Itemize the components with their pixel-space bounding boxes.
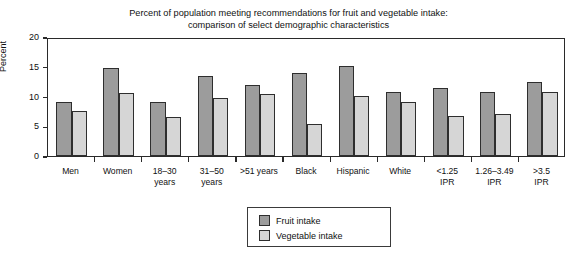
y-tick-label: 10 xyxy=(13,92,39,102)
x-tick-label-line-1: White xyxy=(389,166,411,176)
bar-fruit-intake xyxy=(433,88,448,156)
bar-group xyxy=(339,39,370,156)
legend-swatch-vegetable-intake xyxy=(259,230,270,241)
y-tick-label: 5 xyxy=(13,121,39,131)
bar-fruit-intake xyxy=(150,102,165,156)
x-tick-label-line-1: Black xyxy=(295,166,316,176)
x-tick-label-line-1: 1.26–3.49 xyxy=(475,166,513,176)
bar-vegetable-intake xyxy=(448,116,463,156)
x-tick-mark xyxy=(424,157,425,162)
x-tick-mark xyxy=(518,157,519,162)
x-tick-mark xyxy=(188,157,189,162)
bar-vegetable-intake xyxy=(213,98,228,156)
bar-vegetable-intake xyxy=(119,93,134,156)
bars-layer xyxy=(48,39,564,156)
x-tick-mark xyxy=(377,157,378,162)
x-tick-mark xyxy=(141,157,142,162)
bar-fruit-intake xyxy=(386,92,401,156)
chart-title: Percent of population meeting recommenda… xyxy=(0,8,577,31)
x-tick-label-line-1: Women xyxy=(103,166,132,176)
legend-item-fruit-intake: Fruit intake xyxy=(259,213,390,228)
chart-legend: Fruit intake Vegetable intake xyxy=(247,207,391,247)
bar-vegetable-intake xyxy=(307,124,322,156)
x-tick-mark xyxy=(282,157,283,162)
x-tick-label-line-2: years xyxy=(182,177,241,188)
x-tick-label-line-1: 31–50 xyxy=(200,166,224,176)
bar-group xyxy=(527,39,558,156)
bar-vegetable-intake xyxy=(401,102,416,156)
bar-fruit-intake xyxy=(292,73,307,156)
bar-fruit-intake xyxy=(527,82,542,156)
bar-group xyxy=(150,39,181,156)
x-tick-label: >3.5IPR xyxy=(512,166,571,187)
bar-vegetable-intake xyxy=(260,94,275,156)
legend-label-fruit-intake: Fruit intake xyxy=(276,216,321,226)
x-tick-mark xyxy=(94,157,95,162)
bar-group xyxy=(245,39,276,156)
legend-label-vegetable-intake: Vegetable intake xyxy=(276,231,343,241)
x-tick-label-line-1: Hispanic xyxy=(337,166,370,176)
bar-group xyxy=(292,39,323,156)
x-tick-mark xyxy=(235,157,236,162)
bar-vegetable-intake xyxy=(354,96,369,156)
x-tick-label-line-1: >3.5 xyxy=(533,166,550,176)
legend-item-vegetable-intake: Vegetable intake xyxy=(259,228,390,243)
bar-vegetable-intake xyxy=(166,117,181,156)
x-tick-label-line-2: IPR xyxy=(512,177,571,188)
bar-fruit-intake xyxy=(56,102,71,156)
x-tick-label-line-1: >51 years xyxy=(240,166,278,176)
x-tick-label-line-1: 18–30 xyxy=(153,166,177,176)
x-tick-label-line-1: <1.25 xyxy=(436,166,458,176)
bar-vegetable-intake xyxy=(72,111,87,156)
bar-group xyxy=(433,39,464,156)
bar-fruit-intake xyxy=(245,85,260,156)
chart-title-line-1: Percent of population meeting recommenda… xyxy=(0,8,577,20)
plot-area xyxy=(47,38,565,157)
bar-vegetable-intake xyxy=(542,92,557,156)
y-axis-label: Percent xyxy=(0,41,8,72)
legend-swatch-fruit-intake xyxy=(259,215,270,226)
x-tick-mark xyxy=(330,157,331,162)
bar-group xyxy=(56,39,87,156)
bar-fruit-intake xyxy=(103,68,118,156)
x-tick-mark xyxy=(471,157,472,162)
y-tick-label: 15 xyxy=(13,62,39,72)
x-tick-label-line-1: Men xyxy=(62,166,79,176)
bar-group xyxy=(480,39,511,156)
chart-title-line-2: comparison of select demographic charact… xyxy=(0,20,577,32)
bar-fruit-intake xyxy=(198,76,213,156)
bar-fruit-intake xyxy=(339,66,354,156)
y-tick-label: 0 xyxy=(13,151,39,161)
bar-group xyxy=(103,39,134,156)
bar-group xyxy=(198,39,229,156)
bar-vegetable-intake xyxy=(495,114,510,156)
y-tick-label: 20 xyxy=(13,32,39,42)
bar-fruit-intake xyxy=(480,92,495,156)
bar-group xyxy=(386,39,417,156)
